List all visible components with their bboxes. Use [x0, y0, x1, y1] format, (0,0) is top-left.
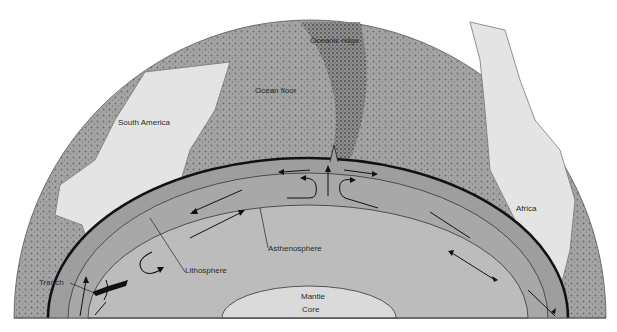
- earth-cross-section-diagram: Oceanic ridge Ocean floor South America …: [0, 0, 617, 332]
- mantle-label: Mantle: [301, 292, 325, 301]
- lithosphere-label: Lithosphere: [185, 266, 227, 275]
- trench-label: Trench: [39, 278, 64, 287]
- oceanic-ridge-label: Oceanic ridge: [310, 36, 359, 45]
- africa-label: Africa: [516, 204, 536, 213]
- asthenosphere-label: Asthenosphere: [268, 244, 322, 253]
- ocean-floor-label: Ocean floor: [255, 86, 296, 95]
- core-label: Core: [302, 305, 319, 314]
- diagram-graphic: [0, 0, 617, 332]
- south-america-label: South America: [118, 118, 170, 127]
